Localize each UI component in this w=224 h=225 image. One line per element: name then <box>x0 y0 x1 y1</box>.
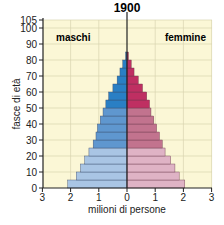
x-tick-label: 3 <box>40 192 46 203</box>
y-tick-label: 0 <box>31 183 37 194</box>
bar-female <box>127 92 147 100</box>
y-tick-label: 60 <box>26 87 38 98</box>
bar-male <box>68 180 127 188</box>
y-tick-label: 10 <box>26 167 38 178</box>
bar-female <box>127 164 175 172</box>
bar-male <box>106 100 127 108</box>
bar-male <box>89 148 127 156</box>
bar-female <box>127 148 165 156</box>
bar-male <box>76 172 127 180</box>
population-pyramid-chart: 0102030405060708090100105 3210123 1900 m… <box>0 0 224 225</box>
chart-title: 1900 <box>114 1 141 15</box>
y-tick-label: 20 <box>26 151 38 162</box>
bar-male <box>103 108 127 116</box>
x-axis-label: milioni di persone <box>88 204 166 215</box>
bar-female <box>127 172 179 180</box>
y-tick-label: 105 <box>20 15 37 26</box>
bar-male <box>113 84 127 92</box>
y-axis-label: fasce di età <box>11 78 22 130</box>
y-tick-label: 40 <box>26 119 38 130</box>
bar-male <box>80 164 127 172</box>
y-tick-label: 50 <box>26 103 38 114</box>
legend-female: femmine <box>165 32 207 43</box>
y-ticks: 0102030405060708090100105 <box>20 15 43 194</box>
bar-female <box>127 116 154 124</box>
y-tick-label: 80 <box>26 55 38 66</box>
bar-male <box>120 68 127 76</box>
bar-female <box>127 100 150 108</box>
bar-female <box>127 156 171 164</box>
bar-male <box>123 60 127 68</box>
y-tick-label: 30 <box>26 135 38 146</box>
y-tick-label: 90 <box>26 39 38 50</box>
bar-female <box>127 180 185 188</box>
x-tick-label: 2 <box>68 192 74 203</box>
bar-female <box>127 60 131 68</box>
bar-male <box>97 124 127 132</box>
x-tick-label: 1 <box>152 192 158 203</box>
x-ticks: 3210123 <box>40 188 215 203</box>
bar-male <box>117 76 127 84</box>
bar-female <box>127 124 157 132</box>
bar-female <box>127 68 134 76</box>
legend-male: maschi <box>56 32 91 43</box>
x-tick-label: 0 <box>124 192 130 203</box>
bar-female <box>127 76 138 84</box>
bar-male <box>96 132 127 140</box>
bar-female <box>127 84 143 92</box>
x-tick-label: 2 <box>181 192 187 203</box>
bar-female <box>127 140 162 148</box>
bar-male <box>100 116 127 124</box>
bar-male <box>109 92 127 100</box>
y-tick-label: 70 <box>26 71 38 82</box>
bar-female <box>127 108 151 116</box>
bar-female <box>127 132 159 140</box>
bar-male <box>93 140 127 148</box>
x-tick-label: 3 <box>209 192 215 203</box>
x-tick-label: 1 <box>96 192 102 203</box>
bar-male <box>85 156 127 164</box>
